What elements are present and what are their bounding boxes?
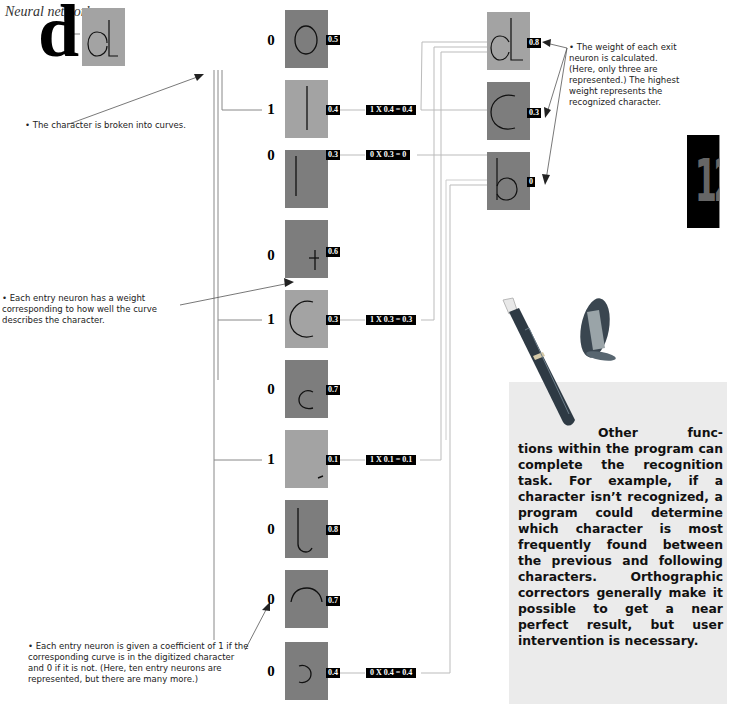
sidebar-text-body: tions within the program can complete th… [518, 441, 723, 648]
entry-neuron-c-arc-small [285, 360, 328, 418]
note-entry-weight: • Each entry neuron has a weight corresp… [2, 293, 182, 326]
entry-weight: 0.5 [326, 35, 340, 45]
note-broken-into-curves: • The character is broken into curves. [25, 120, 225, 131]
coefficient: 0 [265, 147, 277, 164]
calculation-label: 1 X 0.3 = 0.3 [366, 315, 416, 325]
entry-neuron-j-hook [285, 500, 328, 558]
calculation-label: 0 X 0.4 = 0.4 [366, 668, 416, 678]
coefficient: 0 [265, 663, 277, 680]
exit-weight: 0.3 [527, 108, 541, 118]
fountain-pen-icon [495, 290, 635, 430]
coefficient: 0 [265, 521, 277, 538]
calculation-label: 0 X 0.3 = 0 [366, 150, 410, 160]
entry-neuron-vertical-line-tall [285, 80, 328, 138]
note-entry-coefficient: • Each entry neuron is given a coefficie… [28, 641, 250, 685]
entry-neuron-top-arch [285, 570, 328, 628]
entry-weight: 0.3 [326, 315, 340, 325]
entry-weight: 0.7 [326, 596, 340, 606]
exit-neuron-c [487, 82, 530, 140]
entry-neuron-oval [285, 10, 328, 68]
entry-weight: 0.4 [326, 668, 340, 678]
exit-neuron-d [487, 12, 530, 70]
entry-weight: 0.6 [326, 247, 340, 257]
entry-neuron-vertical-line [285, 150, 328, 208]
entry-weight: 0.4 [326, 105, 340, 115]
entry-weight: 0.1 [326, 455, 340, 465]
calculation-label: 1 X 0.1 = 0.1 [366, 455, 416, 465]
coefficient: 0 [265, 32, 277, 49]
digitized-character-box [82, 8, 125, 66]
entry-neuron-c-arc-large [285, 290, 328, 348]
entry-weight: 0.3 [326, 150, 340, 160]
entry-weight: 0.8 [326, 525, 340, 535]
entry-neuron-cross [285, 220, 328, 278]
exit-weight: 0 [527, 177, 535, 187]
coefficient: 1 [265, 311, 277, 328]
note-exit-weight: • The weight of each exit neuron is calc… [569, 42, 684, 108]
sidebar-text: Other func- tions within the program can… [518, 425, 723, 649]
chapter-tab: 12 [687, 135, 719, 228]
entry-weight: 0.7 [326, 385, 340, 395]
coefficient: 1 [265, 101, 277, 118]
coefficient: 0 [265, 591, 277, 608]
digitized-d-glyph [82, 8, 125, 66]
coefficient: 0 [265, 381, 277, 398]
coefficient: 1 [265, 451, 277, 468]
exit-weight: 0.8 [527, 38, 541, 48]
input-character: d [38, 0, 79, 68]
exit-neuron-b [487, 152, 530, 210]
calculation-label: 1 X 0.4 = 0.4 [366, 105, 416, 115]
entry-neuron-reverse-c [285, 642, 328, 700]
sidebar-text-first-line: Other func- [518, 425, 723, 441]
entry-neuron-small-tick [285, 430, 328, 488]
coefficient: 0 [265, 247, 277, 264]
